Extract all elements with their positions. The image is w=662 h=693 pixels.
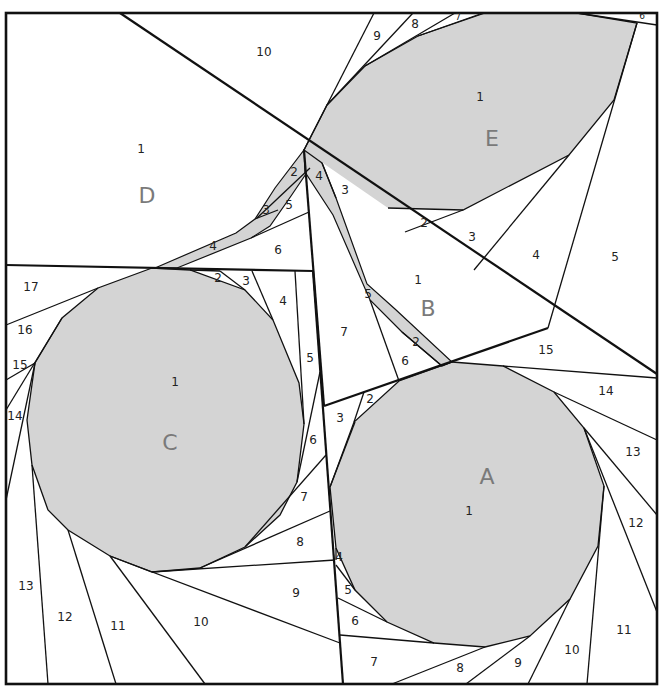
piece-label: 6 <box>309 433 317 447</box>
piece-label: 9 <box>292 586 300 600</box>
piece-label: 6 <box>401 354 409 368</box>
piece-label: 15 <box>538 343 553 357</box>
piece-label: 6 <box>274 243 282 257</box>
piece-label: 13 <box>625 445 640 459</box>
piece-label: 1 <box>465 504 473 518</box>
piece-label: 2 <box>214 271 222 285</box>
section-letter-a: A <box>479 464 494 489</box>
piece-label: 3 <box>468 230 476 244</box>
piece-label: 7 <box>300 490 308 504</box>
section-letter-c: C <box>162 430 177 455</box>
piece-label: 2 <box>366 392 374 406</box>
piece-label: 4 <box>209 239 217 253</box>
piece-label: 11 <box>616 623 631 637</box>
piece-label: 10 <box>564 643 579 657</box>
piece-label: 1 <box>171 375 179 389</box>
piece-label: 7 <box>340 325 348 339</box>
piece-label: 6 <box>639 11 645 21</box>
piece-label: 10 <box>193 615 208 629</box>
piece-label: 2 <box>412 335 420 349</box>
piece-label: 7 <box>455 12 461 22</box>
piece-label: 1 <box>137 142 145 156</box>
piece-label: 17 <box>23 280 38 294</box>
piece-label: 5 <box>344 583 352 597</box>
piece-label: 5 <box>364 287 372 301</box>
piece-label: 14 <box>598 384 613 398</box>
piece-label: 3 <box>242 274 250 288</box>
piece-label: 15 <box>12 358 27 372</box>
piece-label: 3 <box>336 411 344 425</box>
piece-label: 8 <box>411 17 419 31</box>
section-letter-b: B <box>420 296 435 321</box>
piece-label: 7 <box>370 655 378 669</box>
piece-label: 4 <box>315 169 323 183</box>
section-e-shape <box>304 13 637 210</box>
section-letter-e: E <box>485 126 499 151</box>
piece-label: 14 <box>7 409 22 423</box>
piece-label: 16 <box>17 323 32 337</box>
paper-piecing-diagram: A B C D E 1 2 3 4 5 6 7 8 9 10 11 12 13 … <box>0 0 662 693</box>
piece-label: 11 <box>110 619 125 633</box>
piece-label: 9 <box>373 29 381 43</box>
piece-label: 4 <box>532 248 540 262</box>
piece-label: 5 <box>611 250 619 264</box>
piece-label: 3 <box>341 183 349 197</box>
piece-label: 1 <box>476 90 484 104</box>
piece-label: 8 <box>296 535 304 549</box>
piece-label: 9 <box>514 656 522 670</box>
piece-label: 5 <box>306 351 314 365</box>
piece-label: 12 <box>628 516 643 530</box>
piece-label: 2 <box>290 165 298 179</box>
piece-label: 12 <box>57 610 72 624</box>
piece-label: 6 <box>351 614 359 628</box>
piece-label: 13 <box>18 579 33 593</box>
piece-label: 10 <box>256 45 271 59</box>
piece-label: 5 <box>285 198 293 212</box>
piece-label: 1 <box>414 273 422 287</box>
piece-label: 2 <box>420 216 428 230</box>
piece-label: 8 <box>456 661 464 675</box>
piece-label: 4 <box>279 294 287 308</box>
section-letter-d: D <box>139 183 156 208</box>
piece-label: 4 <box>335 550 343 564</box>
piece-label: 3 <box>262 203 270 217</box>
